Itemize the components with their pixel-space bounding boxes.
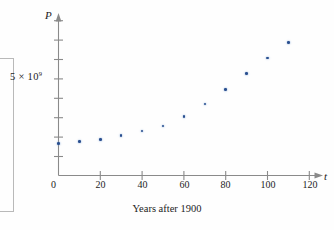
x-axis-title: Years after 1900 xyxy=(0,203,334,214)
origin-label: 0 xyxy=(51,179,56,190)
scatter-plot-canvas xyxy=(0,0,334,230)
data-point xyxy=(224,88,227,91)
figure-screenshot: P t 5 × 109 0 20 40 60 80 100 120 Years … xyxy=(0,0,334,230)
x-axis-arrowhead xyxy=(315,173,324,179)
data-point xyxy=(99,138,102,141)
x-axis-tick-label: 60 xyxy=(174,179,195,190)
x-axis-tick-label: 20 xyxy=(90,179,111,190)
data-point xyxy=(287,41,290,44)
y-tick-exponent: 9 xyxy=(39,70,43,77)
data-point xyxy=(57,142,60,145)
y-axis-name: P xyxy=(45,9,52,21)
y-axis-tick-label-5e9: 5 × 109 xyxy=(10,71,42,82)
y-tick-mantissa: 5 × 10 xyxy=(10,71,39,82)
x-axis-tick-label: 120 xyxy=(298,179,322,190)
x-axis-tick-label: 40 xyxy=(132,179,153,190)
x-axis-tick-label: 100 xyxy=(256,179,280,190)
data-point xyxy=(78,140,81,143)
data-point xyxy=(245,72,248,75)
x-axis-tick-label: 80 xyxy=(215,179,236,190)
x-axis-name: t xyxy=(324,170,327,182)
